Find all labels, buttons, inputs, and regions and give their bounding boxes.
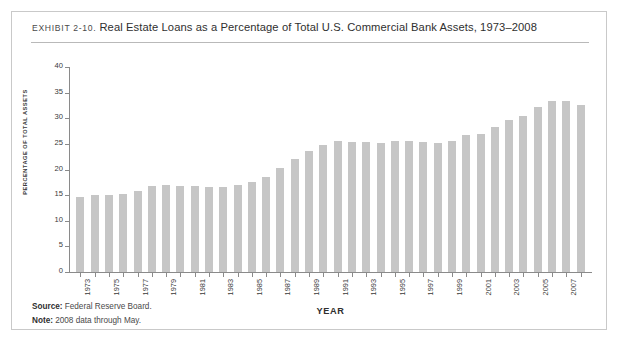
bar (305, 151, 313, 272)
x-axis-tick (481, 273, 482, 277)
exhibit-title: Real Estate Loans as a Percentage of Tot… (99, 21, 537, 33)
bar (91, 195, 99, 272)
footnote-note-text: 2008 data through May. (55, 316, 141, 325)
y-axis-tick (65, 272, 69, 273)
y-axis-tick-label: 0 (59, 266, 63, 275)
footnote-source-label: Source: (32, 302, 62, 311)
x-axis-line (69, 272, 592, 273)
bar (319, 145, 327, 272)
bar (377, 143, 385, 272)
bar (262, 177, 270, 272)
bar (348, 142, 356, 272)
x-axis-tick (323, 273, 324, 277)
x-axis-tick-label: 2005 (541, 279, 550, 295)
bar (276, 168, 284, 272)
y-axis-tick-label: 40 (55, 61, 63, 70)
y-axis-tick-label: 15 (55, 189, 63, 198)
x-axis-tick (280, 273, 281, 277)
x-axis-tick-label: 1995 (398, 279, 407, 295)
y-axis-tick-label: 35 (55, 87, 63, 96)
x-axis-tick-label: 1999 (455, 279, 464, 295)
bar (291, 159, 299, 272)
bar (248, 182, 256, 272)
footnote-note-label: Note: (32, 316, 53, 325)
x-axis-tick (495, 273, 496, 277)
bar (162, 185, 170, 272)
bar (119, 194, 127, 272)
bar (405, 141, 413, 272)
x-axis-tick (581, 273, 582, 277)
y-axis-title: PERCENTAGE OF TOTAL ASSETS (22, 82, 28, 202)
footnote-source-text: Federal Reserve Board. (65, 302, 152, 311)
x-axis-tick (523, 273, 524, 277)
exhibit-title-bar: EXHIBIT 2-10. Real Estate Loans as a Per… (12, 12, 606, 43)
x-axis-tick (238, 273, 239, 277)
x-axis-tick (395, 273, 396, 277)
exhibit-number: EXHIBIT 2-10. (32, 23, 96, 33)
bar (477, 134, 485, 272)
x-axis-tick (452, 273, 453, 277)
bar-series (69, 67, 592, 272)
x-axis-tick (409, 273, 410, 277)
x-axis-tick-label: 2003 (512, 279, 521, 295)
x-axis-tick (266, 273, 267, 277)
x-axis-tick (152, 273, 153, 277)
x-axis-tick-label: 1983 (226, 279, 235, 295)
x-axis-tick-label: 1973 (83, 279, 92, 295)
y-axis-tick-label: 5 (59, 240, 63, 249)
bar (519, 116, 527, 272)
bar (391, 141, 399, 272)
x-axis-tick (466, 273, 467, 277)
bar (205, 187, 213, 272)
x-axis-tick (352, 273, 353, 277)
x-axis-tick (438, 273, 439, 277)
x-axis-tick-label: 1993 (369, 279, 378, 295)
bar (76, 197, 84, 272)
x-axis-tick (252, 273, 253, 277)
x-axis-tick (538, 273, 539, 277)
x-axis-tick (123, 273, 124, 277)
x-axis-tick (552, 273, 553, 277)
x-axis-tick-label: 2001 (484, 279, 493, 295)
chart-footnotes: Source: Federal Reserve Board. Note: 200… (32, 300, 152, 328)
x-axis-tick (423, 273, 424, 277)
bar (534, 107, 542, 272)
bar (577, 105, 585, 272)
x-axis-tick-label: 1989 (312, 279, 321, 295)
x-axis-tick-label: 1987 (283, 279, 292, 295)
bar (562, 101, 570, 272)
x-axis-tick (195, 273, 196, 277)
x-axis-tick-label: 1981 (198, 279, 207, 295)
y-axis-tick-label: 20 (55, 164, 63, 173)
x-axis-tick-label: 1979 (169, 279, 178, 295)
bar (434, 143, 442, 272)
bar (234, 185, 242, 272)
bar (134, 191, 142, 272)
x-axis-tick-label: 2007 (569, 279, 578, 295)
bar (191, 186, 199, 272)
bar (362, 142, 370, 272)
x-axis-tick-label: 1975 (112, 279, 121, 295)
bar (462, 135, 470, 272)
x-axis-tick (366, 273, 367, 277)
x-axis-tick (338, 273, 339, 277)
exhibit-frame: EXHIBIT 2-10. Real Estate Loans as a Per… (11, 11, 607, 330)
bar (148, 186, 156, 272)
bar (105, 195, 113, 272)
x-axis-tick-label: 1997 (426, 279, 435, 295)
bar (548, 101, 556, 272)
x-axis-tick (223, 273, 224, 277)
x-axis-tick (309, 273, 310, 277)
x-axis-tick (381, 273, 382, 277)
footnote-note: Note: 2008 data through May. (32, 314, 152, 328)
chart-plot-area: PERCENTAGE OF TOTAL ASSETS 0510152025303… (12, 43, 608, 331)
x-axis-tick-label: 1985 (255, 279, 264, 295)
bar (334, 141, 342, 272)
y-axis-tick-label: 30 (55, 112, 63, 121)
x-axis-tick (566, 273, 567, 277)
x-axis-tick (180, 273, 181, 277)
chart-axes: 0510152025303540 19731975197719791981198… (69, 67, 592, 272)
x-axis-tick (295, 273, 296, 277)
bar (219, 187, 227, 272)
bar (419, 142, 427, 272)
